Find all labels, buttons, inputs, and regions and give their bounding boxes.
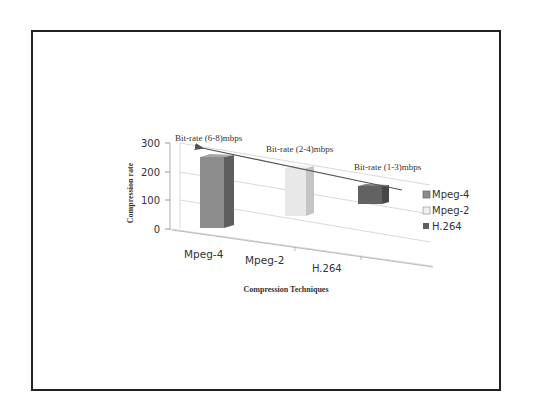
x-label-h264: H.264 <box>312 263 342 274</box>
y-tick-200: 200 <box>141 167 160 178</box>
legend: Mpeg-4 Mpeg-2 H.264 <box>423 189 469 232</box>
x-axis-title: Compression Techniques <box>244 285 329 294</box>
bar-mpeg2 <box>285 165 314 216</box>
y-axis-title: Compression rate <box>126 162 135 223</box>
chart-canvas: 300 200 100 0 Compression rate Bit-rate … <box>0 0 553 417</box>
annotation-mpeg4: Bit-rate (6-8)mbps <box>175 133 243 143</box>
x-label-mpeg4: Mpeg-4 <box>184 248 224 260</box>
annotation-h264: Bit-rate (1-3)mbps <box>354 162 422 172</box>
legend-label-mpeg4: Mpeg-4 <box>432 189 469 200</box>
legend-swatch-mpeg4 <box>423 191 430 198</box>
y-tick-300: 300 <box>141 138 160 149</box>
legend-label-mpeg2: Mpeg-2 <box>432 205 469 216</box>
y-tick-0: 0 <box>154 224 160 235</box>
legend-item-mpeg2: Mpeg-2 <box>423 205 469 216</box>
annotation-mpeg2: Bit-rate (2-4)mbps <box>266 144 334 154</box>
bar-h264 <box>358 184 389 204</box>
bar-mpeg4 <box>200 154 234 228</box>
x-label-mpeg2: Mpeg-2 <box>245 254 284 266</box>
legend-item-h264: H.264 <box>423 221 462 232</box>
legend-item-mpeg4: Mpeg-4 <box>423 189 469 200</box>
y-tick-100: 100 <box>141 195 160 206</box>
legend-swatch-mpeg2 <box>423 207 430 214</box>
y-axis: 300 200 100 0 <box>141 138 170 235</box>
legend-swatch-h264 <box>423 223 429 229</box>
legend-label-h264: H.264 <box>432 221 462 232</box>
